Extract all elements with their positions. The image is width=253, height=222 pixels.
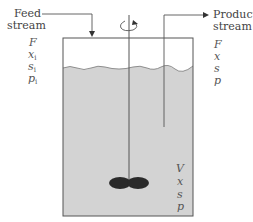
- feed-label-line2: stream: [7, 20, 40, 32]
- product-label-line2: stream: [213, 21, 253, 33]
- feed-var-p: pi: [28, 73, 37, 88]
- reactor-diagram: [0, 0, 253, 222]
- reactor-var-p: p: [177, 201, 184, 212]
- reactor-var-s: s: [177, 189, 183, 200]
- impeller-blade-right: [127, 177, 149, 189]
- feed-stream-label: Feed stream: [14, 8, 40, 32]
- feed-var-F: F: [29, 37, 37, 48]
- product-var-p: p: [214, 75, 221, 86]
- product-stream-label: Product stream: [213, 9, 253, 33]
- product-var-s: s: [214, 63, 220, 74]
- feed-line: [42, 14, 92, 32]
- reactor-var-x: x: [177, 176, 183, 187]
- liquid-volume: [63, 65, 193, 216]
- product-var-x: x: [214, 51, 220, 62]
- product-arrow-icon: [203, 12, 209, 18]
- rotation-arrowhead-icon: [132, 20, 138, 25]
- product-var-F: F: [214, 39, 222, 50]
- reactor-var-V: V: [176, 163, 184, 174]
- feed-arrow-icon: [89, 31, 95, 37]
